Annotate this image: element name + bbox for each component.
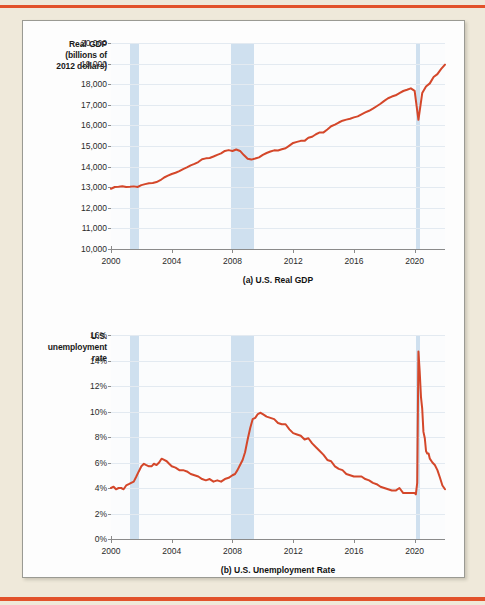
figure-panel: Real GDP(billions of2012 dollars) 10,000… xyxy=(22,20,465,578)
unemployment-y-tick-label-6: 12% xyxy=(90,381,107,391)
unemployment-x-tickmark-2 xyxy=(232,539,233,543)
unemployment-y-tick-label-4: 8% xyxy=(95,432,107,442)
unemployment-x-tick-label-3: 2012 xyxy=(284,546,303,556)
unemployment-x-tickmark-0 xyxy=(111,539,112,543)
unemployment-caption: (b) U.S. Unemployment Rate xyxy=(111,565,445,575)
gdp-y-tick-label-9: 19,000 xyxy=(81,59,107,69)
gdp-plot-area: 10,00011,00012,00013,00014,00015,00016,0… xyxy=(111,43,445,249)
gdp-y-tick-label-10: 20,000 xyxy=(81,38,107,48)
unemployment-x-tickmark-5 xyxy=(415,539,416,543)
gdp-x-tick-label-5: 2020 xyxy=(405,256,424,266)
unemployment-x-tick-label-1: 2004 xyxy=(162,546,181,556)
chart-us-unemployment-rate: U.S.unemploymentrate 0%2%4%6%8%10%12%14%… xyxy=(23,309,466,577)
gdp-x-tick-label-0: 2000 xyxy=(102,256,121,266)
unemployment-x-axis-line xyxy=(111,539,445,540)
unemployment-y-tick-label-3: 6% xyxy=(95,458,107,468)
unemployment-x-tick-label-2: 2008 xyxy=(223,546,242,556)
unemployment-x-tickmark-3 xyxy=(293,539,294,543)
unemployment-y-tick-label-0: 0% xyxy=(95,534,107,544)
gdp-x-tick-label-4: 2016 xyxy=(344,256,363,266)
gdp-y-tick-label-5: 15,000 xyxy=(81,141,107,151)
unemployment-x-tick-label-0: 2000 xyxy=(102,546,121,556)
unemployment-series-layer xyxy=(111,335,445,539)
gdp-x-tick-label-1: 2004 xyxy=(162,256,181,266)
gdp-y-tick-label-4: 14,000 xyxy=(81,162,107,172)
gdp-caption: (a) U.S. Real GDP xyxy=(111,275,445,285)
unemployment-y-tick-label-8: 16% xyxy=(90,330,107,340)
unemployment-x-tickmark-1 xyxy=(172,539,173,543)
unemployment-axis-title-line-1: unemployment xyxy=(23,342,107,353)
unemployment-plot-area: 0%2%4%6%8%10%12%14%16%200020042008201220… xyxy=(111,335,445,539)
gdp-x-tickmark-2 xyxy=(232,249,233,253)
gdp-y-tick-label-2: 12,000 xyxy=(81,203,107,213)
gdp-x-axis-line xyxy=(111,249,445,250)
gdp-x-tickmark-0 xyxy=(111,249,112,253)
gdp-x-tick-label-3: 2012 xyxy=(284,256,303,266)
gdp-y-tick-label-0: 10,000 xyxy=(81,244,107,254)
gdp-y-tick-label-3: 13,000 xyxy=(81,182,107,192)
gdp-y-tick-label-6: 16,000 xyxy=(81,120,107,130)
gdp-x-tickmark-4 xyxy=(354,249,355,253)
gdp-x-tick-label-2: 2008 xyxy=(223,256,242,266)
gdp-series-layer xyxy=(111,43,445,249)
figure-root: Real GDP(billions of2012 dollars) 10,000… xyxy=(0,0,485,605)
unemployment-data-line xyxy=(111,352,445,495)
gdp-y-tick-label-8: 18,000 xyxy=(81,79,107,89)
bottom-rule xyxy=(0,597,485,601)
gdp-x-tickmark-5 xyxy=(415,249,416,253)
gdp-data-line xyxy=(111,65,445,189)
chart-us-real-gdp: Real GDP(billions of2012 dollars) 10,000… xyxy=(23,27,466,299)
top-rule xyxy=(0,5,485,8)
unemployment-x-tickmark-4 xyxy=(354,539,355,543)
unemployment-y-tick-label-2: 4% xyxy=(95,483,107,493)
gdp-x-tickmark-3 xyxy=(293,249,294,253)
unemployment-x-tick-label-4: 2016 xyxy=(344,546,363,556)
unemployment-y-tick-label-7: 14% xyxy=(90,356,107,366)
gdp-y-tick-label-7: 17,000 xyxy=(81,100,107,110)
unemployment-y-tick-label-1: 2% xyxy=(95,509,107,519)
gdp-x-tickmark-1 xyxy=(172,249,173,253)
gdp-y-tick-label-1: 11,000 xyxy=(82,223,107,233)
unemployment-x-tick-label-5: 2020 xyxy=(405,546,424,556)
unemployment-y-tick-label-5: 10% xyxy=(90,407,107,417)
